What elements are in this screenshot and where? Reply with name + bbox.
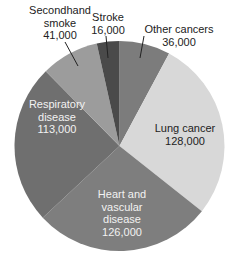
label-secondhand-smoke: Secondhandsmoke41,000 (22, 4, 98, 42)
label-lung-cancer: Lung cancer128,000 (148, 122, 222, 147)
label-other-cancers: Other cancers36,000 (142, 23, 216, 48)
label-respiratory-disease: Respiratorydisease113,000 (22, 98, 92, 136)
label-heart-vascular-disease: Heart andvasculardisease126,000 (90, 188, 154, 238)
label-stroke: Stroke16,000 (88, 11, 128, 36)
